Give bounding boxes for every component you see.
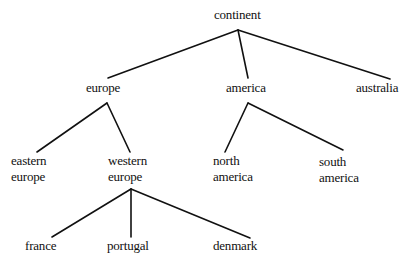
- node-label-line-1: north: [213, 153, 253, 169]
- edge-europe-western-europe: [107, 103, 130, 152]
- hierarchy-tree-diagram: continent europe america australia easte…: [0, 0, 409, 266]
- edge-europe-eastern-europe: [37, 103, 107, 152]
- node-label-line-1: western: [108, 153, 147, 169]
- edge-america-north-america: [225, 103, 248, 152]
- node-label: america: [226, 80, 266, 96]
- node-label: continent: [214, 7, 261, 23]
- node-label-line-2: america: [319, 170, 359, 186]
- node-australia: australia: [356, 80, 398, 96]
- node-label-line-1: south: [319, 154, 359, 170]
- node-south-america: south america: [319, 154, 359, 186]
- node-eastern-europe: eastern europe: [11, 153, 46, 185]
- edge-america-south-america: [248, 103, 343, 150]
- edge-continent-america: [238, 30, 248, 78]
- node-north-america: north america: [213, 153, 253, 185]
- node-western-europe: western europe: [108, 153, 147, 185]
- edge-continent-australia: [238, 30, 390, 79]
- tree-edges: [0, 0, 409, 266]
- node-denmark: denmark: [213, 238, 257, 254]
- node-continent: continent: [214, 7, 261, 23]
- node-label-line-2: america: [213, 169, 253, 185]
- node-label: portugal: [107, 238, 149, 254]
- node-label: france: [25, 238, 56, 254]
- node-europe: europe: [86, 80, 120, 96]
- node-label: australia: [356, 80, 398, 96]
- node-portugal: portugal: [107, 238, 149, 254]
- node-label: denmark: [213, 238, 257, 254]
- edge-western-europe-france: [52, 189, 131, 237]
- node-label-line-2: europe: [108, 169, 147, 185]
- node-france: france: [25, 238, 56, 254]
- node-label: europe: [86, 80, 120, 96]
- edge-western-europe-denmark: [131, 189, 250, 238]
- node-america: america: [226, 80, 266, 96]
- edge-continent-europe: [108, 30, 238, 78]
- node-label-line-2: europe: [11, 169, 46, 185]
- node-label-line-1: eastern: [11, 153, 46, 169]
